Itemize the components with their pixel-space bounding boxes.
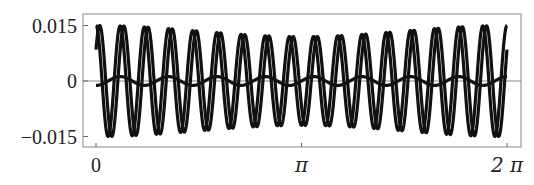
series-group <box>96 26 507 137</box>
x-tick-label: π <box>294 153 309 177</box>
y-axis: 0.0150−0.015 <box>21 15 88 148</box>
x-axis: 0π2 π <box>91 143 524 177</box>
x-tick-label: 0 <box>91 154 101 176</box>
x-tick-label: 2 π <box>490 153 524 177</box>
y-tick-label: −0.015 <box>21 126 77 148</box>
y-tick-label: 0 <box>67 70 77 92</box>
y-tick-label: 0.015 <box>32 15 77 37</box>
chart: 0.0150−0.015 0π2 π <box>0 0 534 185</box>
